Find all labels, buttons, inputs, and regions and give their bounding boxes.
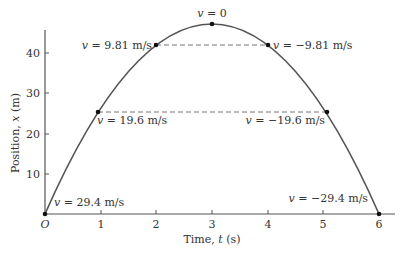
x-ticks: O 1 2 3 4 5 6 [40,210,382,231]
annotation-v-t2: v = 9.81 m/s [82,39,153,52]
x-tick-label: 6 [376,218,383,231]
y-tick-label: 40 [26,47,40,60]
x-tick-label: 5 [320,218,327,231]
x-tick-label: 3 [209,218,216,231]
annotation-v-t0: v = 29.4 m/s [54,196,125,209]
x-tick-label: 1 [98,218,105,231]
annotation-v-t1: v = 19.6 m/s [97,114,168,127]
x-axis-title: Time, t (s) [184,233,241,246]
y-tick-label: 10 [26,168,40,181]
y-tick-label: 20 [26,128,40,141]
annotation-v-t3: v = 0 [197,7,226,20]
x-tick-label: 2 [153,218,160,231]
y-axis-title: Position, x (m) [9,93,22,173]
position-time-chart: 10 20 30 40 O 1 2 3 4 5 6 Time, t (s) Po… [0,0,411,254]
x-tick-label-origin: O [40,218,49,231]
annotation-v-t5: v = −19.6 m/s [246,114,326,127]
position-curve [45,24,379,214]
x-tick-label: 4 [265,218,272,231]
y-tick-label: 30 [26,87,40,100]
annotation-v-t6: v = −29.4 m/s [289,192,369,205]
annotation-v-t4: v = −9.81 m/s [273,39,353,52]
